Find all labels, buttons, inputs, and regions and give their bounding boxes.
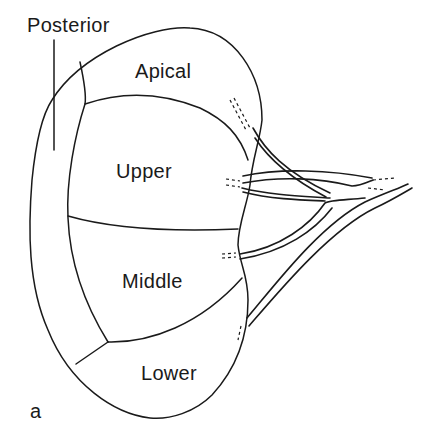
kidney-outline-drawing [0,0,422,447]
apical-label: Apical [135,60,191,83]
lower-label: Lower [141,362,197,385]
posterior-segment-boundary [68,62,108,342]
apical-upper-boundary [85,95,248,160]
kidney-outer-outline [30,28,262,419]
upper-middle-boundary [68,216,238,230]
renal-artery-branches [240,128,412,326]
upper-label: Upper [116,160,172,183]
posterior-lower-boundary [76,342,108,364]
middle-label: Middle [122,270,183,293]
posterior-label: Posterior [27,14,110,37]
kidney-segment-diagram: Posterior Apical Upper Middle Lower a [0,0,422,447]
panel-label: a [30,400,41,423]
